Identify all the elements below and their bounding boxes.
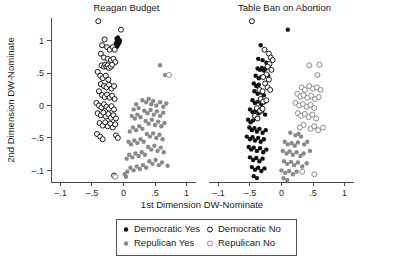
legend-marker-filled-icon — [124, 241, 128, 245]
y-axis-tick-label: 1 — [39, 36, 44, 46]
data-point — [100, 137, 105, 142]
x-axis-title: 1st Dimension DW-Nominate — [141, 199, 263, 210]
data-point — [260, 89, 265, 94]
x-axis-tick-label: –.1 — [212, 188, 225, 198]
data-point — [291, 153, 295, 157]
data-point — [299, 134, 303, 138]
data-point — [100, 43, 105, 48]
data-point — [151, 99, 155, 103]
panel-title-reagan-budget: Reagan Budget — [93, 2, 159, 13]
y-axis-tick-label: –.5 — [31, 133, 44, 143]
data-point — [292, 163, 296, 167]
data-point — [131, 107, 135, 111]
data-point — [141, 163, 145, 167]
data-point — [160, 137, 164, 141]
data-point — [115, 135, 120, 140]
data-point — [102, 37, 107, 42]
legend-item-repulican-no[interactable]: Repulican No — [208, 237, 276, 248]
data-point — [138, 137, 142, 141]
data-point — [302, 87, 307, 92]
data-point — [151, 131, 155, 135]
data-point — [134, 102, 138, 106]
legend-item-democratic-yes[interactable]: Democratic Yes — [124, 223, 200, 234]
data-point — [285, 162, 289, 166]
x-axis-tick-label: 0 — [121, 188, 126, 198]
data-point — [149, 147, 153, 151]
data-point — [316, 128, 321, 133]
data-point — [301, 151, 305, 155]
data-point — [135, 112, 139, 116]
data-point — [160, 160, 164, 164]
series-repulican-yes — [123, 63, 170, 179]
x-axis-tick-label: –.1 — [54, 188, 67, 198]
data-point — [136, 106, 140, 110]
series-repulican-yes — [279, 131, 312, 183]
data-point — [316, 95, 321, 100]
data-point — [315, 73, 320, 78]
data-point — [279, 168, 283, 172]
data-point — [126, 140, 130, 144]
data-point — [153, 158, 157, 162]
data-point — [137, 124, 141, 128]
data-point — [256, 166, 260, 170]
data-point — [161, 105, 165, 109]
data-point — [112, 47, 117, 52]
data-point — [281, 176, 285, 180]
data-point — [158, 100, 162, 104]
data-point — [296, 140, 300, 144]
legend-item-repulican-yes[interactable]: Repulican Yes — [124, 237, 195, 248]
data-point — [289, 160, 293, 164]
data-point — [294, 169, 298, 173]
data-point — [150, 118, 154, 122]
data-point — [260, 106, 265, 111]
data-point — [262, 137, 266, 141]
y-axis-tick-label: .5 — [36, 68, 44, 78]
data-point — [147, 97, 151, 101]
y-axis-tick-label: 0 — [39, 101, 44, 111]
data-point — [287, 149, 291, 153]
data-point — [262, 166, 266, 170]
data-point — [260, 58, 264, 62]
data-point — [314, 116, 319, 121]
data-point — [145, 111, 149, 115]
data-point — [318, 87, 323, 92]
data-point — [256, 57, 260, 61]
data-point — [135, 164, 139, 168]
y-axis-tick-label: –.1 — [31, 166, 44, 176]
data-point — [132, 138, 136, 142]
data-point — [256, 136, 260, 140]
x-axis-tick-label: .5 — [309, 188, 317, 198]
data-point — [264, 98, 269, 103]
data-point — [269, 67, 274, 72]
data-point — [140, 98, 144, 102]
data-point — [110, 62, 115, 67]
data-point — [286, 142, 290, 146]
data-point — [255, 116, 260, 121]
data-point — [118, 27, 123, 32]
legend-marker-filled-icon — [124, 227, 128, 231]
data-point — [317, 62, 322, 67]
data-point — [281, 149, 285, 153]
data-point — [154, 103, 158, 107]
x-axis-tick-label: 1 — [184, 188, 189, 198]
data-point — [257, 127, 261, 131]
data-point — [296, 160, 300, 164]
data-point — [252, 145, 256, 149]
data-point — [159, 124, 163, 128]
data-point — [264, 128, 268, 132]
data-point — [157, 132, 161, 136]
x-axis-tick-label: 1 — [342, 188, 347, 198]
data-point — [113, 174, 118, 179]
legend-label: Repulican Yes — [134, 237, 194, 248]
data-point — [288, 131, 292, 135]
data-point — [308, 149, 312, 153]
data-point — [161, 110, 165, 114]
data-point — [128, 129, 132, 133]
data-point — [286, 27, 290, 31]
legend-item-democratic-no[interactable]: Democratic No — [208, 223, 281, 234]
data-point — [291, 172, 295, 176]
data-point — [249, 19, 254, 24]
data-point — [263, 112, 267, 116]
data-point — [312, 106, 317, 111]
data-point — [148, 134, 152, 138]
